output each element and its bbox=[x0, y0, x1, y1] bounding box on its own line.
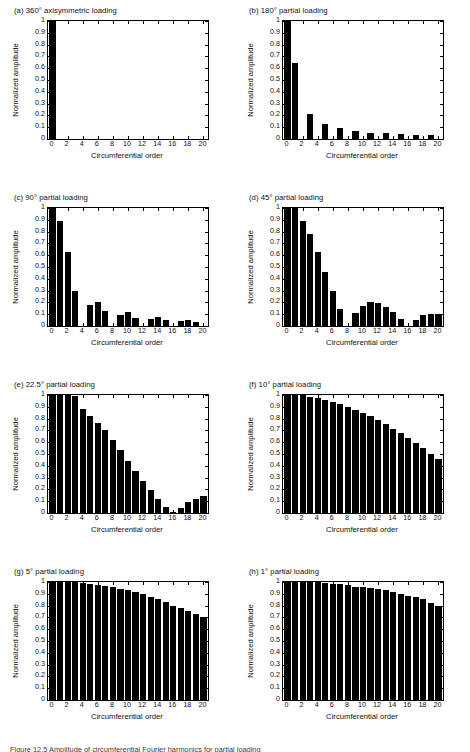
bar bbox=[163, 602, 169, 700]
plot-area-f: Normalized amplitude00.10.20.30.40.50.60… bbox=[248, 394, 456, 534]
y-tick-label: 1 bbox=[41, 390, 45, 397]
y-tick-label: 1 bbox=[276, 16, 280, 23]
y-tick-label: 0.9 bbox=[270, 402, 280, 409]
x-tick-label: 12 bbox=[138, 514, 146, 521]
y-tick-label: 0.5 bbox=[270, 636, 280, 643]
axes-frame-c bbox=[47, 207, 209, 327]
x-tick-label: 8 bbox=[345, 514, 349, 521]
y-tick-label: 0.6 bbox=[35, 625, 45, 632]
bar bbox=[413, 597, 419, 700]
y-tick-label: 0.7 bbox=[35, 239, 45, 246]
bar bbox=[428, 454, 434, 513]
bar bbox=[315, 398, 321, 513]
y-tick-label: 0.6 bbox=[35, 438, 45, 445]
bar bbox=[367, 302, 373, 326]
bar bbox=[102, 586, 108, 700]
x-tick-label: 0 bbox=[285, 140, 289, 147]
y-tick-label: 0.3 bbox=[270, 473, 280, 480]
x-tick-label: 8 bbox=[110, 140, 114, 147]
y-tick-label: 0 bbox=[41, 321, 45, 328]
bar bbox=[337, 404, 343, 513]
x-tick-label: 2 bbox=[300, 327, 304, 334]
bar bbox=[155, 499, 161, 513]
bar bbox=[65, 395, 71, 513]
y-axis-label-h: Normalized amplitude bbox=[246, 581, 258, 701]
bar bbox=[435, 459, 441, 513]
bar bbox=[193, 614, 199, 700]
y-tick-label: 0 bbox=[41, 134, 45, 141]
x-tick-label: 12 bbox=[138, 701, 146, 708]
y-tick-label: 0.9 bbox=[35, 402, 45, 409]
bar-series-f bbox=[283, 395, 443, 513]
y-tick-labels-d: 00.10.20.30.40.50.60.70.80.91 bbox=[258, 207, 280, 325]
x-tick-label: 18 bbox=[183, 701, 191, 708]
bar bbox=[57, 221, 63, 326]
x-tick-label: 8 bbox=[110, 514, 114, 521]
panel-title-d: (d) 45° partial loading bbox=[235, 187, 470, 202]
axes-frame-h bbox=[282, 581, 444, 701]
axes-frame-g bbox=[47, 581, 209, 701]
y-tick-label: 0.1 bbox=[270, 497, 280, 504]
x-tick-label: 0 bbox=[285, 327, 289, 334]
x-tick-label: 4 bbox=[315, 514, 319, 521]
y-axis-label-f: Normalized amplitude bbox=[246, 394, 258, 514]
x-tick-label: 16 bbox=[403, 140, 411, 147]
y-tick-label: 1 bbox=[276, 390, 280, 397]
x-tick-label: 14 bbox=[153, 701, 161, 708]
bar-series-c bbox=[48, 208, 208, 326]
x-axis-label-g: Circumferential order bbox=[47, 712, 207, 721]
y-tick-label: 0.4 bbox=[270, 648, 280, 655]
y-tick-labels-e: 00.10.20.30.40.50.60.70.80.91 bbox=[23, 394, 45, 512]
bar-series-a bbox=[48, 21, 208, 139]
x-tick-label: 10 bbox=[358, 140, 366, 147]
y-tick-label: 0.9 bbox=[35, 28, 45, 35]
bar bbox=[428, 603, 434, 700]
y-tick-label: 0 bbox=[276, 321, 280, 328]
x-tick-labels-b: 02468101214161820 bbox=[282, 140, 442, 150]
bar bbox=[330, 584, 336, 700]
y-tick-label: 0.7 bbox=[270, 52, 280, 59]
bar-series-b bbox=[283, 21, 443, 139]
bar bbox=[292, 582, 298, 700]
x-tick-label: 6 bbox=[95, 514, 99, 521]
x-tick-label: 16 bbox=[168, 140, 176, 147]
bar bbox=[87, 416, 93, 513]
x-tick-label: 12 bbox=[373, 701, 381, 708]
bar bbox=[405, 596, 411, 700]
bar bbox=[420, 315, 426, 326]
y-tick-labels-h: 00.10.20.30.40.50.60.70.80.91 bbox=[258, 581, 280, 699]
y-tick-label: 0.2 bbox=[35, 672, 45, 679]
y-tick-label: 0.4 bbox=[35, 274, 45, 281]
bar bbox=[322, 583, 328, 700]
x-tick-label: 16 bbox=[403, 514, 411, 521]
y-axis-label-c: Normalized amplitude bbox=[11, 207, 23, 327]
plot-area-a: Normalized amplitude00.10.20.30.40.50.60… bbox=[13, 20, 221, 160]
x-tick-label: 12 bbox=[138, 140, 146, 147]
bar bbox=[110, 440, 116, 513]
bar bbox=[390, 312, 396, 326]
y-tick-label: 0 bbox=[276, 508, 280, 515]
x-tick-label: 8 bbox=[345, 327, 349, 334]
x-tick-label: 14 bbox=[388, 140, 396, 147]
y-tick-label: 0.7 bbox=[270, 426, 280, 433]
y-axis-label-b: Normalized amplitude bbox=[246, 20, 258, 140]
y-tick-label: 0.4 bbox=[270, 274, 280, 281]
y-tick-label: 1 bbox=[276, 203, 280, 210]
y-axis-label-e: Normalized amplitude bbox=[11, 394, 23, 514]
bar bbox=[148, 490, 154, 513]
y-tick-label: 0.2 bbox=[35, 485, 45, 492]
bar bbox=[292, 395, 298, 513]
y-tick-label: 0.5 bbox=[35, 636, 45, 643]
bar bbox=[435, 606, 441, 700]
x-tick-label: 12 bbox=[373, 514, 381, 521]
x-tick-label: 0 bbox=[50, 701, 54, 708]
y-tick-label: 0.8 bbox=[270, 227, 280, 234]
y-tick-label: 0.2 bbox=[270, 111, 280, 118]
x-axis-label-d: Circumferential order bbox=[282, 338, 442, 347]
bar bbox=[57, 582, 63, 700]
x-axis-label-f: Circumferential order bbox=[282, 525, 442, 534]
y-tick-label: 0.4 bbox=[35, 461, 45, 468]
y-tick-label: 0.7 bbox=[35, 613, 45, 620]
bar bbox=[80, 583, 86, 700]
x-tick-label: 18 bbox=[183, 140, 191, 147]
